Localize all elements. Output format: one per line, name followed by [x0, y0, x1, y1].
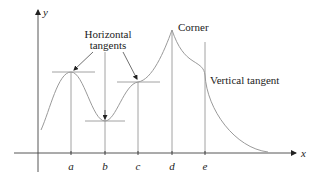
vertical-tangent-label: Vertical tangent — [210, 74, 279, 86]
tick-label-e: e — [203, 160, 208, 172]
tick-labels: a b c d e — [68, 160, 207, 172]
arrow-to-a — [74, 52, 93, 70]
arrow-to-c — [123, 52, 137, 79]
horizontal-tangents-label-line2: tangents — [90, 39, 127, 51]
tick-label-d: d — [169, 160, 175, 172]
function-curve — [41, 30, 268, 152]
corner-label: Corner — [178, 21, 209, 33]
tick-label-c: c — [136, 160, 141, 172]
tick-label-a: a — [68, 160, 74, 172]
function-graph-figure: y x a b c d e Horizontal — [0, 0, 310, 178]
annotations: Horizontal tangents Corner Vertical tang… — [84, 21, 279, 86]
tick-label-b: b — [102, 160, 108, 172]
axes: y x — [14, 6, 306, 172]
y-axis-label: y — [42, 6, 48, 18]
x-axis-label: x — [300, 147, 306, 159]
